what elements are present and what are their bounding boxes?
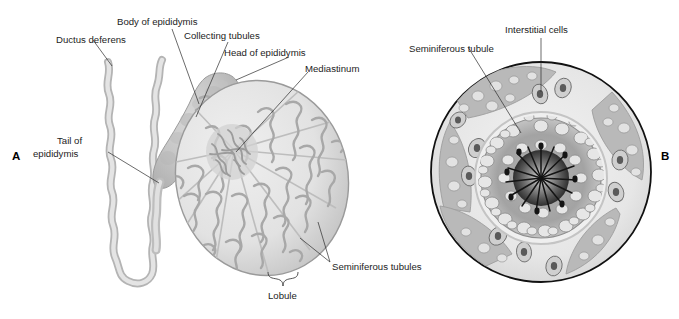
mediastinum-structure (206, 124, 258, 180)
panel-letter-b: B (661, 150, 669, 162)
label-lobule: Lobule (268, 290, 297, 301)
label-seminiferous-tubules: Seminiferous tubules (332, 261, 422, 272)
label-body-of-epididymis: Body of epididymis (117, 16, 198, 27)
label-ductus-deferens: Ductus deferens (56, 34, 126, 45)
panel-letter-a: A (12, 150, 20, 162)
label-collecting-tubules: Collecting tubules (184, 30, 260, 41)
label-head-of-epididymis: Head of epididymis (224, 47, 306, 58)
label-mediastinum: Mediastinum (305, 63, 359, 74)
central-seminiferous-tubule (475, 112, 607, 244)
anatomy-figure: Ductus deferens Body of epididymis Colle… (0, 0, 679, 319)
label-tail-of-epididymis-line1: Tail of (57, 135, 82, 146)
label-interstitial-cells: Interstitial cells (505, 24, 568, 35)
label-tail-of-epididymis-line2: epididymis (33, 148, 79, 159)
label-seminiferous-tubule: Seminiferous tubule (409, 43, 494, 54)
